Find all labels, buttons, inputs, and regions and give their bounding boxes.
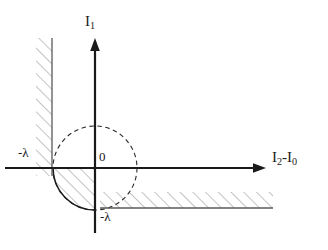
negative-lambda-x-label: -λ xyxy=(18,146,29,159)
x-axis-arrowhead xyxy=(253,163,266,173)
figure-canvas: I1 I2-I0 0 -λ -λ xyxy=(0,0,328,250)
x-axis-label: I2-I0 xyxy=(272,150,297,165)
y-axis-label: I1 xyxy=(85,14,95,29)
origin-label: 0 xyxy=(99,150,106,163)
y-axis-arrowhead xyxy=(90,38,100,51)
negative-lambda-y-label: -λ xyxy=(100,210,111,223)
diagram-svg xyxy=(0,0,328,250)
hatch-region-left xyxy=(30,30,60,190)
